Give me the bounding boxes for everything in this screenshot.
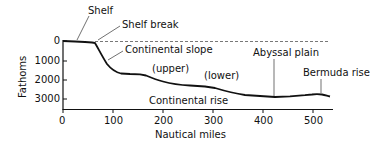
x-axis-title: Nautical miles xyxy=(155,130,226,140)
shelf-break-leader xyxy=(98,26,120,40)
x-tick-100: 100 xyxy=(104,116,123,126)
x-tick-200: 200 xyxy=(154,116,173,126)
y-tick-3000: 3000 xyxy=(35,94,60,104)
continental-rise-label: Continental rise xyxy=(149,96,228,106)
x-tick-500: 500 xyxy=(304,116,323,126)
upper-label: (upper) xyxy=(152,64,189,74)
lower-label: (lower) xyxy=(204,71,239,81)
y-tick-2000: 2000 xyxy=(35,75,60,85)
x-tick-300: 300 xyxy=(204,116,223,126)
y-tick-0: 0 xyxy=(54,36,60,46)
shelf-break-label: Shelf break xyxy=(122,20,179,30)
x-tick-400: 400 xyxy=(254,116,273,126)
continental-slope-label: Continental slope xyxy=(125,45,213,55)
bermuda-rise-label: Bermuda rise xyxy=(303,68,370,78)
shelf-leader xyxy=(77,16,89,40)
shelf-label: Shelf xyxy=(88,6,113,16)
y-tick-1000: 1000 xyxy=(35,56,60,66)
continental-slope-leader xyxy=(108,51,123,60)
x-tick-0: 0 xyxy=(59,116,65,126)
y-axis-title: Fathoms xyxy=(18,56,28,98)
abyssal-plain-label: Abyssal plain xyxy=(253,48,319,58)
